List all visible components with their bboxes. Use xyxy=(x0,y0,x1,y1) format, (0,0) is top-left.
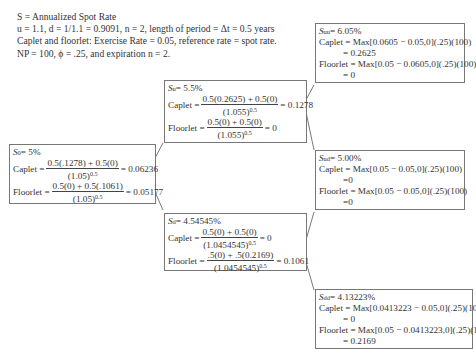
caplet-value: = 0.2625 xyxy=(319,48,461,59)
caplet-value: =0 xyxy=(319,175,461,186)
caplet-value: = 0.06236 xyxy=(121,164,158,175)
floorlet-label: Floorlet = xyxy=(168,123,205,134)
node-sdd: Sdd = 4.13223% Caplet = Max[0.0413223 − … xyxy=(315,289,473,349)
caplet-value: = 0 xyxy=(260,233,272,244)
spot-rate: = 5% xyxy=(21,147,41,158)
caplet-denominator: (1.055) xyxy=(223,107,250,117)
floorlet-formula: Floorlet = Max[0.05 − 0.05,0](.25)(100) xyxy=(319,186,461,197)
floorlet-denominator: (1.05) xyxy=(73,194,95,204)
spot-rate: = 4.13223% xyxy=(330,292,375,303)
floorlet-denominator: (1.0454545) xyxy=(214,263,259,273)
caplet-denominator: (1.0454545) xyxy=(203,240,248,250)
node-su: Su = 5.5% Caplet = 0.5(0.2625) + 0.5(0)(… xyxy=(164,80,307,143)
caplet-fraction: 0.5(0) + 0.5(0)(1.0454545)0.5 xyxy=(201,227,257,250)
floorlet-numerator: .5(0) + .5(0.2169) xyxy=(207,250,275,261)
caplet-exponent: 0.5 xyxy=(248,240,256,246)
floorlet-value: =0 xyxy=(319,197,461,208)
spot-rate: = 5.00% xyxy=(330,153,361,164)
caplet-fraction: 0.5(0.2625) + 0.5(0)(1.055)0.5 xyxy=(201,94,278,117)
floorlet-label: Floorlet = xyxy=(168,256,205,267)
floorlet-numerator: 0.5(0) + 0.5(.1061) xyxy=(52,181,124,192)
floorlet-formula: Floorlet = Max[0.05 − 0.0413223,0](.25)(… xyxy=(319,325,469,336)
floorlet-denominator: (1.055) xyxy=(218,130,245,140)
spot-rate: = 6.05% xyxy=(330,26,361,37)
floorlet-value: = 0.2169 xyxy=(319,336,469,347)
floorlet-exponent: 0.5 xyxy=(259,263,267,269)
caplet-label: Caplet = xyxy=(168,100,199,111)
caplet-denominator: (1.05) xyxy=(68,171,90,181)
node-sd: Sd = 4.54545% Caplet = 0.5(0) + 0.5(0)(1… xyxy=(164,213,307,271)
node-s0: S0 = 5% Caplet = 0.5(.1278) + 0.5(0)(1.0… xyxy=(9,144,156,204)
caplet-numerator: 0.5(.1278) + 0.5(0) xyxy=(46,158,118,169)
caplet-formula: Caplet = Max[0.0413223 − 0.05,0](.25)(10… xyxy=(319,303,469,314)
floorlet-fraction: 0.5(0) + 0.5(.1061)(1.05)0.5 xyxy=(52,181,124,204)
floorlet-label: Floorlet = xyxy=(13,187,50,198)
caplet-value: = 0.1278 xyxy=(280,100,313,111)
floorlet-value: = 0 xyxy=(265,123,277,134)
spot-rate: = 5.5% xyxy=(176,83,203,94)
floorlet-fraction: 0.5(0) + 0.5(0)(1.055)0.5 xyxy=(207,117,263,140)
floorlet-value: = 0 xyxy=(319,70,461,81)
node-sud: Sud = 5.00% Caplet = Max[0.05 − 0.05,0](… xyxy=(315,150,465,210)
floorlet-exponent: 0.5 xyxy=(244,130,252,136)
caplet-fraction: 0.5(.1278) + 0.5(0)(1.05)0.5 xyxy=(46,158,118,181)
caplet-label: Caplet = xyxy=(13,164,44,175)
caplet-numerator: 0.5(0.2625) + 0.5(0) xyxy=(201,94,278,105)
floorlet-numerator: 0.5(0) + 0.5(0) xyxy=(207,117,263,128)
caplet-exponent: 0.5 xyxy=(250,107,258,113)
caplet-formula: Caplet = Max[0.0605 − 0.05,0](.25)(100) xyxy=(319,37,461,48)
floorlet-exponent: 0.5 xyxy=(95,194,103,200)
caplet-numerator: 0.5(0) + 0.5(0) xyxy=(201,227,257,238)
caplet-exponent: 0.5 xyxy=(90,171,98,177)
floorlet-formula: Floorlet = Max[0.05 − 0.0605,0](.25)(100… xyxy=(319,59,461,70)
caplet-label: Caplet = xyxy=(168,233,199,244)
caplet-formula: Caplet = Max[0.05 − 0.05,0](.25)(100) xyxy=(319,164,461,175)
floorlet-value: = 0.1061 xyxy=(276,256,309,267)
node-suu: Suu = 6.05% Caplet = Max[0.0605 − 0.05,0… xyxy=(315,23,465,83)
spot-rate: = 4.54545% xyxy=(176,216,221,227)
caplet-value: = 0 xyxy=(319,314,469,325)
floorlet-fraction: .5(0) + .5(0.2169)(1.0454545)0.5 xyxy=(207,250,275,273)
floorlet-value: = 0.05177 xyxy=(126,187,163,198)
